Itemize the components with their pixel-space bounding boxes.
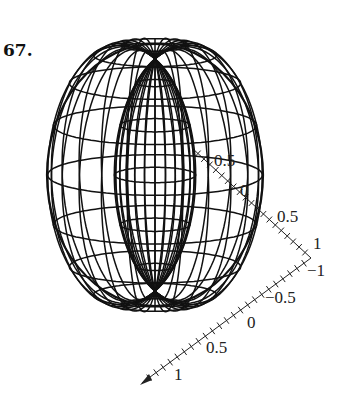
lower-axis-tick [273, 281, 278, 287]
lower-axis-tick [175, 354, 180, 360]
axis-labels: 0.5 0 0.5 1 −1 −0.5 0 0.5 1 [174, 151, 325, 384]
lower-axis-label: 1 [174, 365, 183, 384]
lower-axis-label: 0.5 [206, 338, 227, 357]
axis-arrow-icon [140, 374, 152, 385]
upper-axis-label: 0 [240, 181, 249, 200]
lower-axis-tick [259, 291, 264, 297]
lower-axis-tick [245, 302, 250, 308]
lower-axis-tick [196, 338, 201, 344]
lower-axis-tick [302, 260, 307, 266]
lower-axis-tick [252, 296, 257, 302]
torus-wireframe [47, 38, 263, 312]
lower-axis-label: −0.5 [265, 288, 296, 307]
lower-axis-tick [168, 359, 173, 365]
lower-axis-label: 0 [247, 313, 256, 332]
lower-axis-tick [231, 312, 236, 318]
lower-axis-tick [217, 322, 222, 328]
upper-axis-label: 1 [313, 234, 322, 253]
lower-axis-tick [295, 265, 300, 271]
upper-axis-label: 0.5 [214, 151, 235, 170]
lower-axis-tick [280, 276, 285, 282]
torus-figure: 0.5 0 0.5 1 −1 −0.5 0 0.5 1 [0, 0, 351, 409]
lower-axis-tick [210, 328, 215, 334]
lower-axis-tick [161, 364, 166, 370]
lower-axis-tick [154, 369, 159, 375]
lower-axis-tick [224, 317, 229, 323]
lower-axis-tick [238, 307, 243, 313]
lower-axis-tick [182, 349, 187, 355]
upper-axis-label: 0.5 [277, 207, 298, 226]
lower-axis-tick [287, 270, 292, 276]
lower-axis-tick [189, 343, 194, 349]
lower-axis-label: −1 [307, 261, 325, 280]
